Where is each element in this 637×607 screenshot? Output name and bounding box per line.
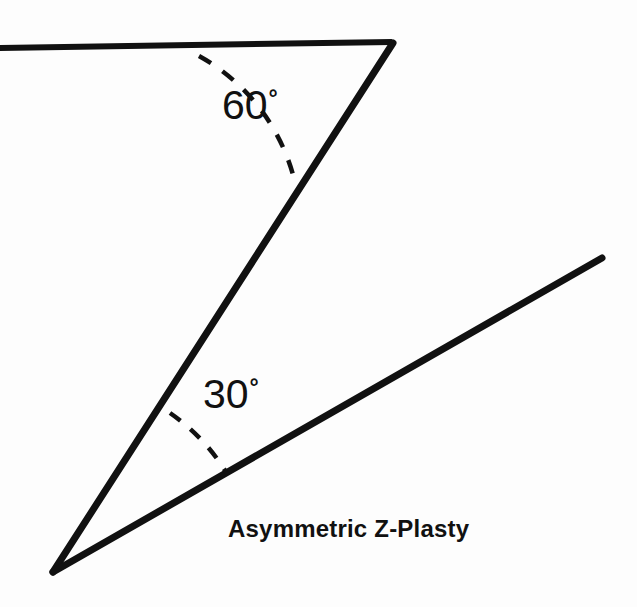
angle-label-30: 30° (203, 374, 258, 415)
angle-arc-30-icon (170, 413, 226, 472)
degree-symbol-30: ° (250, 374, 259, 400)
figure-caption: Asymmetric Z-Plasty (228, 517, 469, 541)
angle-label-60: 60° (222, 85, 277, 126)
zplasty-figure: 60° 30° Asymmetric Z-Plasty (0, 0, 637, 607)
degree-symbol-60: ° (269, 85, 278, 111)
angle-value-60: 60 (222, 82, 268, 128)
upper-limb-line (0, 42, 392, 48)
angle-value-30: 30 (203, 371, 249, 417)
